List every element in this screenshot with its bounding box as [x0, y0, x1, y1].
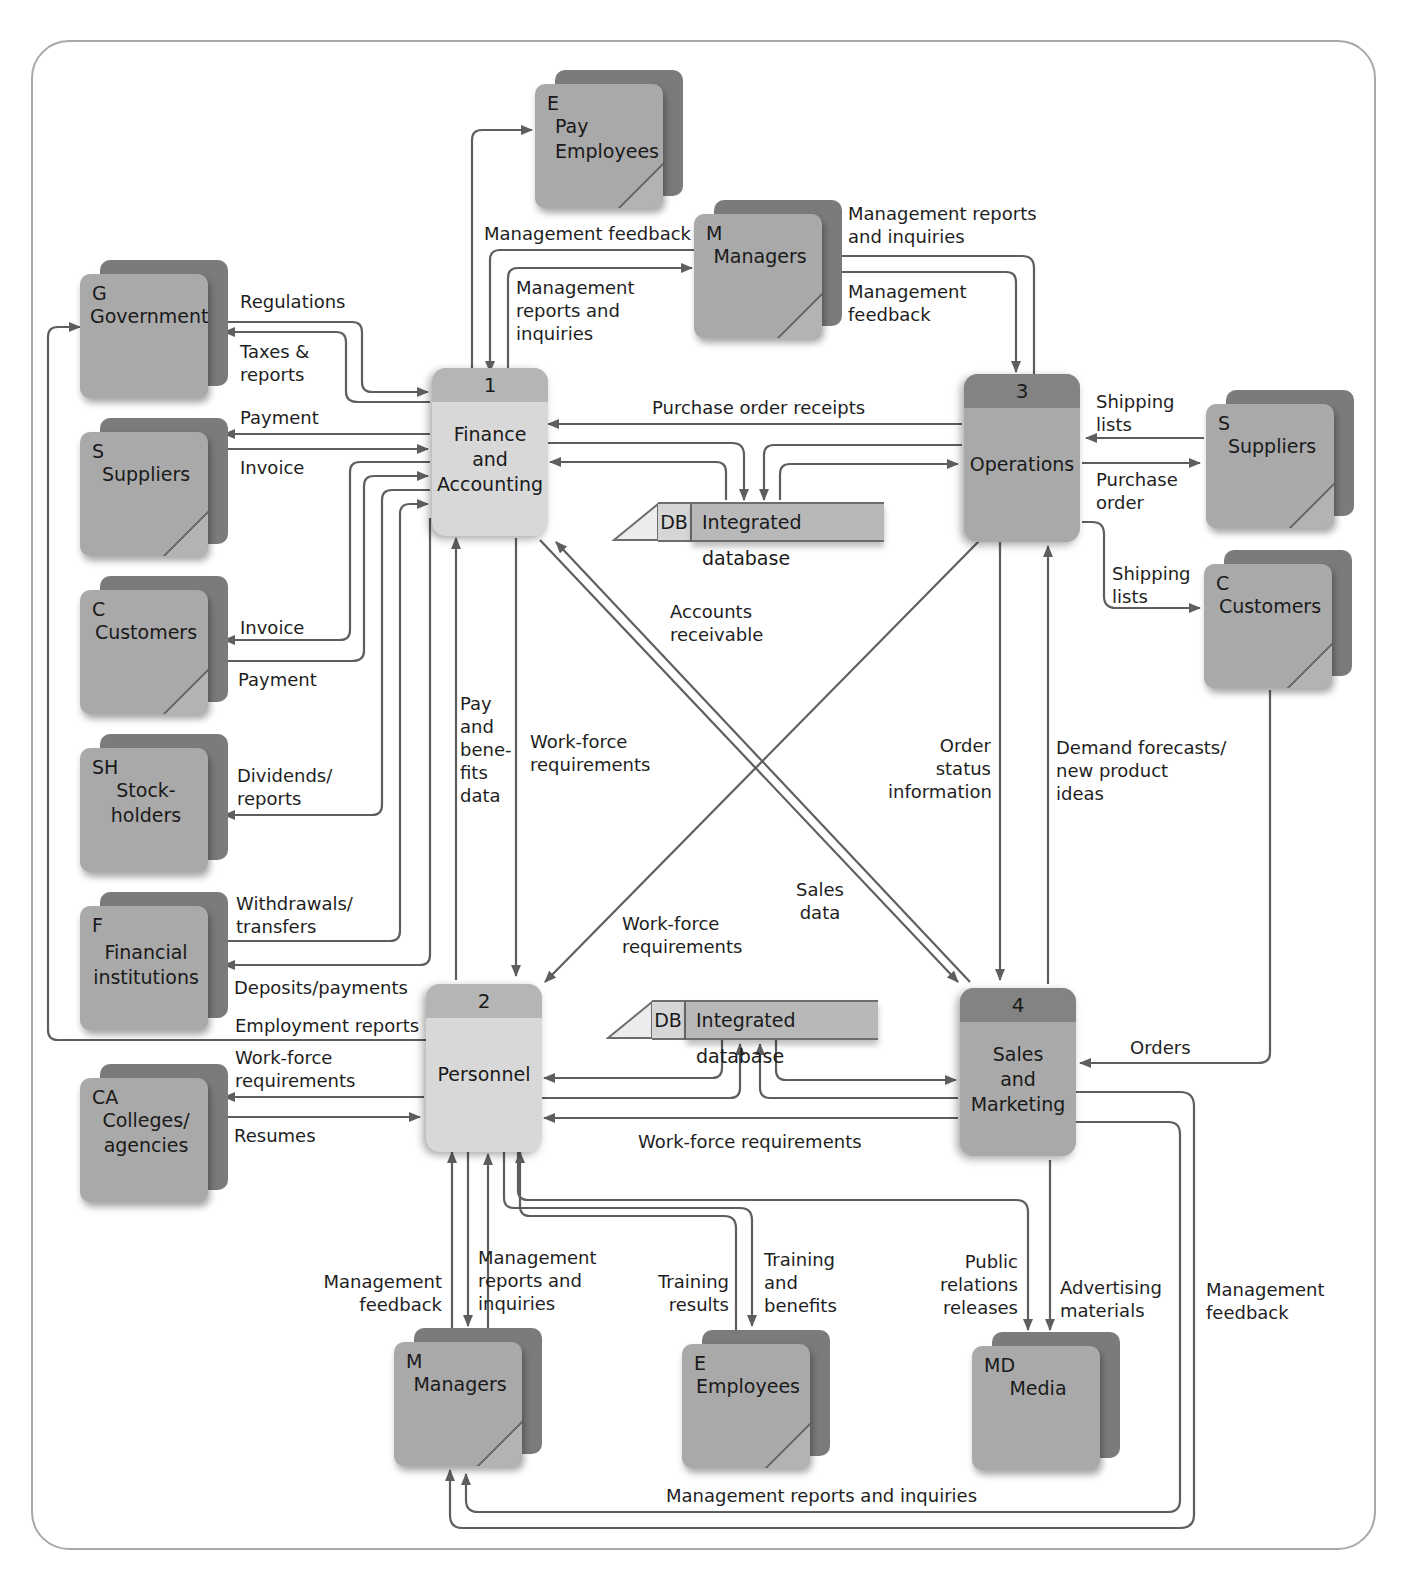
process-operations[interactable]: 3 Operations	[964, 374, 1080, 542]
corner-fold-icon	[156, 504, 208, 556]
flow-label-training-benefits: Trainingandbenefits	[764, 1248, 837, 1317]
entity-government[interactable]: G Government	[80, 274, 214, 404]
flow-label-orders: Orders	[1130, 1036, 1191, 1059]
store-wedge-icon	[612, 502, 660, 542]
entity-customers-right[interactable]: C Customers	[1204, 564, 1338, 694]
flow-label-demand-forecasts: Demand forecasts/new productideas	[1056, 736, 1226, 805]
flow-label-management-feedback-top-right: Managementfeedback	[848, 280, 967, 326]
entity-employees[interactable]: E Employees	[682, 1344, 816, 1474]
corner-fold-icon	[470, 1414, 522, 1466]
flow-label-dividends-reports: Dividends/reports	[237, 764, 332, 810]
flow-label-taxes-reports: Taxes &reports	[240, 340, 309, 386]
flow-label-training-results: Trainingresults	[640, 1270, 729, 1316]
store-wedge-icon	[606, 1000, 654, 1040]
flow-label-management-reports-bottom: Managementreports andinquiries	[478, 1246, 597, 1315]
entity-financial-institutions[interactable]: F Financialinstitutions	[80, 906, 214, 1036]
data-store-integrated-database-bottom[interactable]: DB Integrated database	[606, 1000, 878, 1040]
corner-fold-icon	[156, 662, 208, 714]
flow-label-management-reports-top-left: Managementreports andinquiries	[516, 276, 635, 345]
flow-label-payment-suppliers: Payment	[240, 406, 319, 429]
data-store-integrated-database-top[interactable]: DB Integrated database	[612, 502, 884, 542]
flow-label-deposits-payments: Deposits/payments	[234, 976, 408, 999]
entity-colleges-agencies[interactable]: CA Colleges/agencies	[80, 1078, 214, 1208]
flow-label-payment-customers: Payment	[238, 668, 317, 691]
flow-label-public-relations: Publicrelationsreleases	[918, 1250, 1018, 1319]
flow-label-management-reports-long: Management reports and inquiries	[666, 1484, 977, 1507]
flow-label-resumes: Resumes	[234, 1124, 316, 1147]
corner-fold-icon	[758, 1416, 810, 1468]
flow-label-purchase-order-receipts: Purchase order receipts	[652, 396, 865, 419]
entity-stockholders[interactable]: SH Stock-holders	[80, 748, 214, 878]
corner-fold-icon	[1280, 636, 1332, 688]
entity-managers-top[interactable]: M Managers	[694, 214, 828, 344]
corner-fold-icon	[770, 286, 822, 338]
flow-label-employment-reports: Employment reports	[235, 1014, 419, 1037]
flow-label-management-feedback-top: Management feedback	[484, 222, 691, 245]
flow-label-workforce-colleges: Work-forcerequirements	[235, 1046, 355, 1092]
process-sales-marketing[interactable]: 4 Sales and Marketing	[960, 988, 1076, 1156]
flow-label-invoice-suppliers: Invoice	[240, 456, 304, 479]
process-finance-accounting[interactable]: 1 Finance and Accounting	[432, 368, 548, 536]
flow-label-withdrawals-transfers: Withdrawals/transfers	[236, 892, 353, 938]
flow-label-order-status: Orderstatusinformation	[888, 734, 991, 803]
flow-label-management-feedback-right: Managementfeedback	[1206, 1278, 1325, 1324]
flow-label-accounts-receivable: Accountsreceivable	[670, 600, 763, 646]
entity-managers-bottom[interactable]: M Managers	[394, 1342, 528, 1472]
process-personnel[interactable]: 2 Personnel	[426, 984, 542, 1152]
entity-customers-left[interactable]: C Customers	[80, 590, 214, 720]
entity-media[interactable]: MD Media	[972, 1346, 1106, 1476]
flow-label-sales-data: Salesdata	[796, 878, 844, 924]
entity-suppliers-left[interactable]: S Suppliers	[80, 432, 214, 562]
entity-pay-employees[interactable]: E PayEmployees	[535, 84, 669, 214]
flow-label-pay-benefits-data: Payandbene-fitsdata	[460, 692, 511, 807]
flow-label-management-reports-top-right: Management reportsand inquiries	[848, 202, 1037, 248]
flow-label-shipping-lists-customers: Shippinglists	[1112, 562, 1191, 608]
flow-label-regulations: Regulations	[240, 290, 346, 313]
flow-label-invoice-customers: Invoice	[240, 616, 304, 639]
flow-label-management-feedback-bottom: Managementfeedback	[320, 1270, 442, 1316]
flow-label-workforce-sales-personnel: Work-force requirements	[638, 1130, 862, 1153]
flow-label-purchase-order: Purchaseorder	[1096, 468, 1178, 514]
entity-suppliers-right[interactable]: S Suppliers	[1206, 404, 1340, 534]
corner-fold-icon	[1282, 476, 1334, 528]
flow-label-advertising-materials: Advertisingmaterials	[1060, 1276, 1162, 1322]
flow-label-workforce-finance-personnel: Work-forcerequirements	[530, 730, 650, 776]
flow-label-shipping-lists-suppliers: Shippinglists	[1096, 390, 1175, 436]
flow-label-workforce-operations-personnel: Work-forcerequirements	[622, 912, 742, 958]
